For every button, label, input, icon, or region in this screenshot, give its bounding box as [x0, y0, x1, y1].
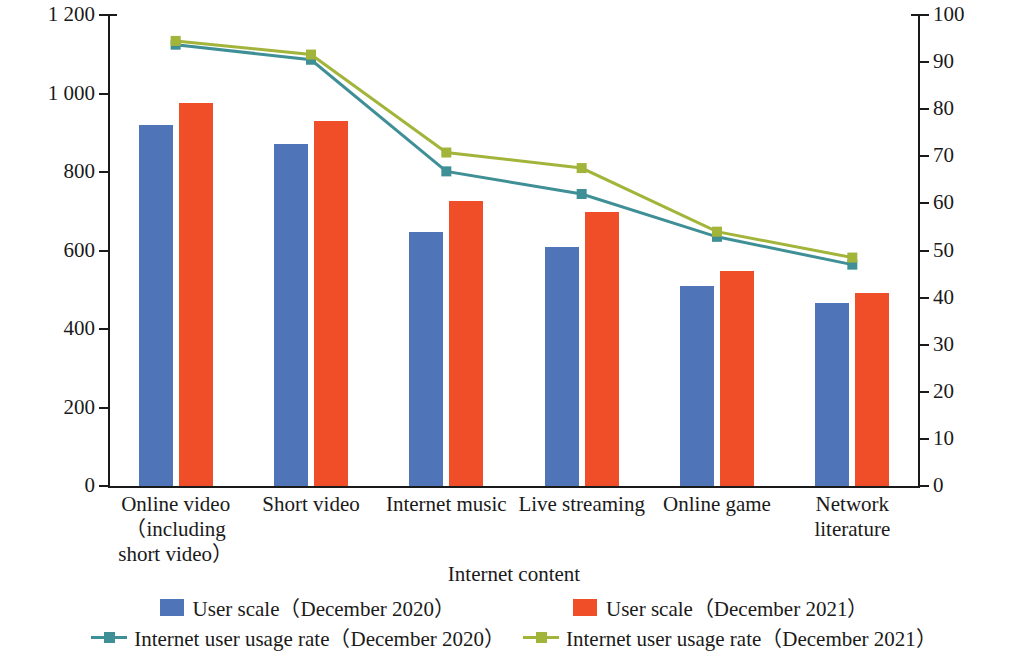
x-axis-tick-label-line: Live streaming [518, 492, 645, 517]
legend-row-bars: User scale（December 2020）User scale（Dece… [0, 592, 1028, 622]
x-axis-tick-label-line: literature [814, 517, 890, 542]
y-axis-left-tick-label: 1 200 [48, 4, 95, 25]
y-axis-left-tick [99, 93, 108, 95]
y-axis-left-tick [99, 171, 108, 173]
y-axis-right-tick-label: 100 [933, 4, 965, 25]
legend-label: Internet user usage rate（December 2021） [566, 622, 937, 652]
chart-legend: User scale（December 2020）User scale（Dece… [0, 592, 1028, 652]
y-axis-right-tick [920, 202, 929, 204]
y-axis-right-tick-label: 70 [933, 145, 954, 166]
x-axis-tick-label-line: （including [118, 517, 233, 542]
legend-item[interactable]: Internet user usage rate（December 2020） [91, 622, 505, 652]
x-axis-tick-label-line: Network [814, 492, 890, 517]
y-axis-right-tick [920, 61, 929, 63]
y-axis-right-tick-label: 40 [933, 287, 954, 308]
y-axis-right-tick-label: 20 [933, 381, 954, 402]
legend-swatch-icon [573, 599, 597, 616]
line-marker [171, 36, 181, 46]
x-axis-tick-label-line: Online video [118, 492, 233, 517]
y-axis-left-tick [99, 485, 108, 487]
legend-item[interactable]: User scale（December 2021） [573, 592, 868, 622]
y-axis-right-tick [920, 438, 929, 440]
plot-area: 02004006008001 0001 200 0102030405060708… [108, 15, 920, 488]
line-marker [577, 189, 587, 199]
x-axis-tick-label: Online video（includingshort video） [118, 492, 233, 567]
chart-figure: 02004006008001 0001 200 0102030405060708… [0, 0, 1028, 656]
x-axis-tick-label: Short video [262, 492, 359, 517]
line-marker [577, 163, 587, 173]
legend-item[interactable]: Internet user usage rate（December 2021） [523, 622, 937, 652]
y-axis-right-tick-label: 50 [933, 240, 954, 261]
line-marker [847, 253, 857, 263]
y-axis-left-tick-label: 600 [64, 240, 96, 261]
y-axis-right-tick-label: 0 [933, 475, 944, 496]
line-2021 [176, 41, 853, 258]
line-marker [441, 166, 451, 176]
legend-line-marker-icon [91, 629, 127, 645]
legend-label: Internet user usage rate（December 2020） [134, 622, 505, 652]
y-axis-right-tick [920, 155, 929, 157]
y-axis-left-tick-label: 400 [64, 318, 96, 339]
x-axis-title: Internet content [0, 562, 1028, 587]
x-axis-tick-label: Online game [663, 492, 771, 517]
y-axis-right-tick-label: 10 [933, 428, 954, 449]
legend-item[interactable]: User scale（December 2020） [160, 592, 455, 622]
legend-label: User scale（December 2021） [606, 592, 868, 622]
y-axis-right-tick [920, 344, 929, 346]
y-axis-right-tick [920, 485, 929, 487]
line-2020 [176, 45, 853, 265]
legend-line-marker-icon [523, 629, 559, 645]
line-marker [441, 148, 451, 158]
y-axis-right-tick-label: 90 [933, 51, 954, 72]
x-axis-tick-label: Networkliterature [814, 492, 890, 542]
y-axis-right-tick [920, 391, 929, 393]
y-axis-right-tick [920, 297, 929, 299]
legend-row-lines: Internet user usage rate（December 2020）I… [0, 622, 1028, 652]
line-marker [306, 50, 316, 60]
x-axis-tick-label: Internet music [386, 492, 507, 517]
line-series-group [108, 15, 920, 488]
y-axis-left-tick [99, 407, 108, 409]
x-axis-tick-label-line: Internet music [386, 492, 507, 517]
y-axis-right-tick-label: 60 [933, 192, 954, 213]
legend-label: User scale（December 2020） [193, 592, 455, 622]
y-axis-right-tick [920, 108, 929, 110]
x-axis-tick-label-line: Online game [663, 492, 771, 517]
y-axis-left-tick [99, 328, 108, 330]
y-axis-left-tick-label: 800 [64, 161, 96, 182]
y-axis-left-tick-label: 0 [85, 475, 96, 496]
y-axis-left-tick-label: 200 [64, 397, 96, 418]
line-marker [712, 227, 722, 237]
legend-swatch-icon [160, 599, 184, 616]
y-axis-left-tick [99, 250, 108, 252]
y-axis-left-title: User scale/million [0, 175, 5, 328]
y-axis-right-tick-label: 30 [933, 334, 954, 355]
x-axis-tick-label-line: Short video [262, 492, 359, 517]
x-axis-tick-labels: Online video（includingshort video）Short … [108, 492, 920, 562]
y-axis-right-tick-label: 80 [933, 98, 954, 119]
y-axis-left-tick-label: 1 000 [48, 83, 95, 104]
x-axis-tick-label: Live streaming [518, 492, 645, 517]
y-axis-right-tick [920, 250, 929, 252]
